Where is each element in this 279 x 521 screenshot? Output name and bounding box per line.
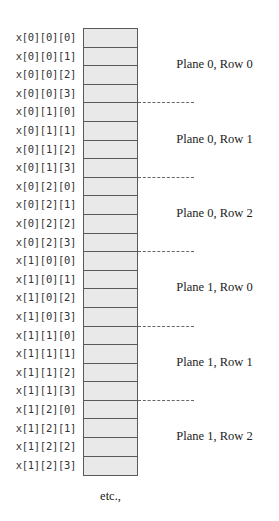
memory-cell — [84, 215, 137, 234]
element-index-label: x[1][0][0] — [0, 251, 76, 270]
memory-cell — [84, 438, 137, 457]
etc-label: etc., — [83, 489, 138, 504]
element-index-label: x[1][0][1] — [0, 270, 76, 289]
element-index-label: x[0][2][1] — [0, 195, 76, 214]
element-index-label: x[0][2][3] — [0, 233, 76, 252]
memory-cell — [84, 364, 137, 383]
memory-cell — [84, 48, 137, 67]
memory-cell — [84, 271, 137, 290]
plane-row-label: Plane 0, Row 1 — [150, 132, 279, 147]
element-index-label: x[0][1][2] — [0, 140, 76, 159]
element-index-label: x[1][0][2] — [0, 288, 76, 307]
element-index-label: x[1][1][0] — [0, 326, 76, 345]
memory-cell — [84, 457, 137, 476]
element-index-label: x[0][0][0] — [0, 28, 76, 47]
group-divider-dashed-line — [138, 251, 194, 252]
memory-cell — [84, 327, 137, 346]
memory-cell — [84, 103, 137, 122]
memory-cell — [84, 141, 137, 160]
memory-cell — [84, 289, 137, 308]
element-index-label: x[1][1][1] — [0, 344, 76, 363]
element-index-label: x[0][1][0] — [0, 102, 76, 121]
element-index-label: x[1][2][0] — [0, 400, 76, 419]
memory-cell — [84, 122, 137, 141]
element-index-label: x[0][2][0] — [0, 177, 76, 196]
group-divider-dashed-line — [138, 102, 194, 103]
element-index-label: x[0][0][1] — [0, 47, 76, 66]
element-index-label: x[0][2][2] — [0, 214, 76, 233]
group-divider-dashed-line — [138, 177, 194, 178]
element-index-label: x[1][1][3] — [0, 381, 76, 400]
memory-cell — [84, 178, 137, 197]
element-index-label: x[1][0][3] — [0, 307, 76, 326]
group-divider-dashed-line — [138, 400, 194, 401]
element-index-label: x[1][1][2] — [0, 363, 76, 382]
element-index-label: x[0][1][3] — [0, 158, 76, 177]
group-divider-dashed-line — [138, 326, 194, 327]
plane-row-label: Plane 1, Row 1 — [150, 355, 279, 370]
element-index-label: x[1][2][3] — [0, 456, 76, 475]
memory-cell-stack — [83, 28, 138, 476]
memory-cell — [84, 85, 137, 104]
memory-cell — [84, 382, 137, 401]
memory-cell — [84, 196, 137, 215]
plane-row-label: Plane 0, Row 0 — [150, 57, 279, 72]
element-index-label: x[0][1][1] — [0, 121, 76, 140]
memory-cell — [84, 419, 137, 438]
element-index-label: x[1][2][1] — [0, 419, 76, 438]
plane-row-label: Plane 1, Row 0 — [150, 280, 279, 295]
element-index-label: x[1][2][2] — [0, 437, 76, 456]
memory-cell — [84, 345, 137, 364]
memory-cell — [84, 66, 137, 85]
memory-cell — [84, 308, 137, 327]
plane-row-label: Plane 1, Row 2 — [150, 429, 279, 444]
memory-cell — [84, 29, 137, 48]
element-index-label: x[0][0][2] — [0, 65, 76, 84]
element-index-label: x[0][0][3] — [0, 84, 76, 103]
memory-cell — [84, 234, 137, 253]
memory-cell — [84, 252, 137, 271]
plane-row-label: Plane 0, Row 2 — [150, 206, 279, 221]
memory-cell — [84, 401, 137, 420]
memory-cell — [84, 159, 137, 178]
